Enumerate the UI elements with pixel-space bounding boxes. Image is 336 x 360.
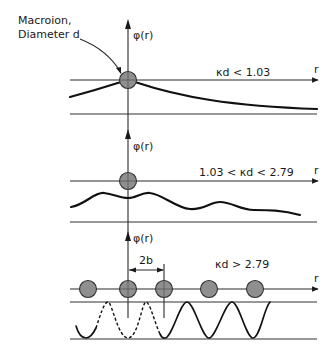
macroion bbox=[247, 281, 264, 298]
panel-2: φ(r) r 1.03 < κd < 2.79 bbox=[70, 129, 319, 222]
potential-curve-left bbox=[70, 82, 121, 97]
dimension-arrow-left-icon bbox=[129, 268, 136, 273]
phi-axis-label: φ(r) bbox=[133, 232, 153, 245]
r-axis-label: r bbox=[314, 63, 319, 76]
phi-axis-arrow-icon bbox=[125, 231, 131, 241]
spacing-label: 2b bbox=[139, 254, 153, 267]
phi-axis-arrow-icon bbox=[125, 19, 131, 29]
potential-wave-solid bbox=[160, 302, 270, 338]
condition-label: κd > 2.79 bbox=[215, 258, 269, 271]
macroion bbox=[156, 281, 173, 298]
macroion-annotation-line1: Macroion, bbox=[18, 14, 72, 27]
annotation-leader-line bbox=[80, 39, 121, 73]
potential-wave-start bbox=[76, 326, 96, 338]
condition-label: κd < 1.03 bbox=[216, 66, 270, 79]
potential-curve bbox=[71, 193, 300, 215]
r-axis-label: r bbox=[314, 164, 319, 177]
panel-3: φ(r) 2b κd > 2.79 r bbox=[70, 231, 319, 339]
annotation-arrow-icon bbox=[116, 67, 121, 74]
condition-label: 1.03 < κd < 2.79 bbox=[199, 166, 294, 179]
phi-axis-label: φ(r) bbox=[133, 140, 153, 153]
macroion bbox=[201, 281, 218, 298]
macroion bbox=[120, 281, 137, 298]
r-axis-label: r bbox=[314, 272, 319, 285]
macroion bbox=[120, 72, 137, 89]
macroion bbox=[80, 281, 97, 298]
panel-1: φ(r) Macroion, Diameter d r κd < 1.03 bbox=[18, 14, 319, 114]
dimension-arrow-right-icon bbox=[157, 268, 164, 273]
macroion bbox=[120, 173, 137, 190]
phi-axis-arrow-icon bbox=[125, 129, 131, 139]
debye-potential-diagram: φ(r) Macroion, Diameter d r κd < 1.03 φ(… bbox=[0, 0, 336, 360]
phi-axis-label: φ(r) bbox=[133, 29, 153, 42]
macroion-annotation-line2: Diameter d bbox=[18, 28, 80, 41]
potential-curve-right bbox=[135, 82, 317, 109]
